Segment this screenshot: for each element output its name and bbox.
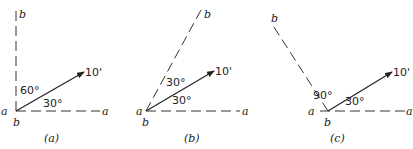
- panel-caption: (b): [184, 132, 200, 145]
- axis-a-end-label: a: [242, 105, 249, 118]
- vector-magnitude-label: 10': [393, 66, 410, 79]
- angle-vector-a-label: 30°: [345, 95, 365, 108]
- axis-b-top-label: b: [19, 8, 26, 21]
- origin-label: b: [13, 116, 20, 129]
- vector-magnitude-label: 10': [85, 66, 102, 79]
- panel-a: a a b b 10' 60° 30° (a): [1, 8, 109, 145]
- axis-b-top-label: b: [271, 12, 278, 25]
- panel-b: a a b b 10' 30° 30° (b): [136, 8, 249, 145]
- angle-vector-b-label: 90°: [313, 89, 333, 102]
- axis-a-start-label: a: [308, 105, 315, 118]
- vector-magnitude-label: 10': [215, 65, 232, 78]
- angle-vector-a-label: 30°: [172, 94, 192, 107]
- axis-b-top-label: b: [204, 8, 211, 21]
- axis-a-start-label: a: [1, 105, 8, 118]
- angle-vector-a-label: 30°: [43, 97, 63, 110]
- oblique-axes-diagram: a a b b 10' 60° 30° (a) a a b b 10' 30° …: [0, 0, 413, 149]
- axis-a-end-label: a: [102, 105, 109, 118]
- origin-label: b: [142, 116, 149, 129]
- panel-caption: (c): [330, 132, 345, 145]
- origin-label: b: [324, 116, 331, 129]
- angle-vector-b-label: 60°: [20, 84, 40, 97]
- panel-c: a a b b 10' 90° 30° (c): [271, 12, 413, 145]
- panel-caption: (a): [44, 132, 59, 145]
- angle-vector-b-label: 30°: [166, 76, 186, 89]
- axis-a-end-label: a: [406, 105, 413, 118]
